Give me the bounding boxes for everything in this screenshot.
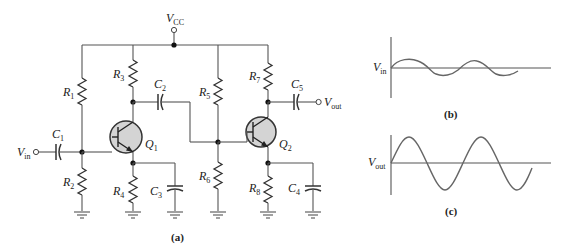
- resistor-r1: [78, 78, 86, 105]
- r8-label: R8: [248, 181, 260, 197]
- r3-label: R3: [112, 67, 124, 83]
- circuit-panel: VCC R1 Vin C1 R2 R3: [17, 11, 342, 244]
- vcc-terminal: [171, 27, 176, 32]
- resistor-r4: [129, 176, 137, 203]
- c3-label: C3: [150, 184, 162, 200]
- transistor-q1-icon: [110, 121, 142, 153]
- c4-label: C4: [288, 181, 300, 197]
- resistor-r5: [214, 78, 222, 105]
- r6-label: R6: [198, 169, 210, 185]
- amplifier-figure: VCC R1 Vin C1 R2 R3: [0, 0, 569, 252]
- panel-a-caption: (a): [171, 231, 184, 244]
- q1-label: Q1: [145, 137, 158, 153]
- r7-label: R7: [248, 69, 260, 85]
- c2-label: C2: [154, 77, 166, 93]
- resistor-r6: [214, 162, 222, 189]
- ground-icon: [74, 212, 90, 218]
- q2-label: Q2: [279, 137, 292, 153]
- vin-axis-label: Vin: [373, 60, 387, 76]
- vout-label: Vout: [324, 95, 342, 111]
- input-waveform-panel: Vin (b): [373, 37, 551, 121]
- resistor-r8: [264, 176, 272, 203]
- transistor-q2-icon: [246, 117, 276, 147]
- resistor-r3: [129, 60, 137, 87]
- ground-icon: [167, 212, 183, 218]
- vout-terminal: [316, 99, 321, 104]
- vcc-label: VCC: [166, 11, 184, 27]
- vout-axis-label: Vout: [368, 155, 386, 171]
- ground-icon: [260, 212, 276, 218]
- r5-label: R5: [198, 85, 210, 101]
- ground-icon: [210, 212, 226, 218]
- panel-b-caption: (b): [444, 108, 458, 121]
- vcc-node: [171, 42, 176, 47]
- vin-terminal: [33, 149, 38, 154]
- c5-label: C5: [291, 77, 303, 93]
- panel-c-caption: (c): [445, 205, 458, 218]
- resistor-r2: [78, 168, 86, 195]
- resistor-r7: [264, 63, 272, 90]
- r4-label: R4: [112, 184, 124, 200]
- r2-label: R2: [62, 175, 74, 191]
- vin-sine-wave: [391, 59, 518, 75]
- vin-label: Vin: [17, 145, 31, 161]
- c1-label: C1: [52, 127, 64, 143]
- ground-icon: [125, 212, 141, 218]
- ground-icon: [305, 212, 321, 218]
- r1-label: R1: [62, 85, 74, 101]
- output-waveform-panel: Vout (c): [368, 135, 551, 218]
